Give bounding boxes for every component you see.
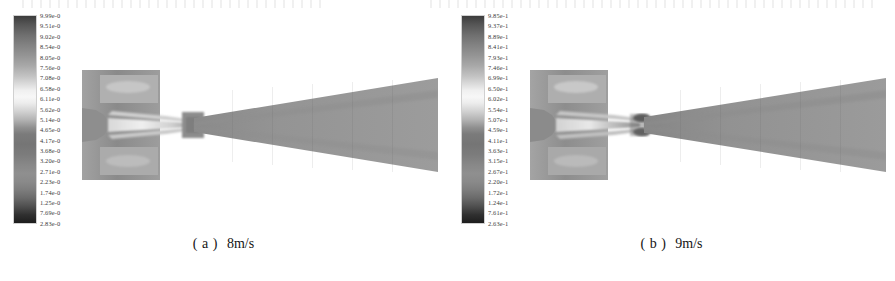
caption-index: ( b ) bbox=[640, 236, 666, 251]
caption-text: 8m/s bbox=[227, 236, 254, 251]
colorbar-tick: 2.83e-0 bbox=[40, 220, 128, 227]
colorbar-tick: 7.69e-0 bbox=[40, 209, 128, 216]
colorbar-tick: 1.24e-1 bbox=[488, 199, 576, 206]
panel-b: 9.85e-1 9.37e-1 8.89e-1 8.41e-1 7.93e-1 … bbox=[448, 0, 895, 281]
colorbar-gradient-b bbox=[462, 16, 484, 223]
colorbar-tick: 2.63e-1 bbox=[488, 220, 576, 227]
caption-text: 9m/s bbox=[675, 236, 702, 251]
colorbar-tick: 1.25e-0 bbox=[40, 199, 128, 206]
panel-a: 9.99e-0 9.51e-0 9.02e-0 8.54e-0 8.05e-0 … bbox=[0, 0, 447, 281]
caption-panel-a: ( a )8m/s bbox=[0, 236, 447, 252]
caption-panel-b: ( b )9m/s bbox=[448, 236, 895, 252]
colorbar-tick: 9.37e-1 bbox=[488, 22, 576, 29]
colorbar-tick: 9.99e-0 bbox=[40, 12, 128, 19]
caption-index: ( a ) bbox=[193, 236, 218, 251]
colorbar-tick: 8.89e-1 bbox=[488, 33, 576, 40]
colorbar-tick: 9.85e-1 bbox=[488, 12, 576, 19]
contour-plot-b bbox=[530, 60, 886, 190]
colorbar-tick: 8.41e-1 bbox=[488, 43, 576, 50]
colorbar-tick: 8.54e-0 bbox=[40, 43, 128, 50]
colorbar-tick: 9.51e-0 bbox=[40, 22, 128, 29]
colorbar-tick: 9.02e-0 bbox=[40, 33, 128, 40]
contour-plot-a bbox=[82, 60, 438, 190]
colorbar-gradient-a bbox=[14, 16, 36, 223]
figure-container: 9.99e-0 9.51e-0 9.02e-0 8.54e-0 8.05e-0 … bbox=[0, 0, 895, 281]
colorbar-tick: 7.61e-1 bbox=[488, 209, 576, 216]
